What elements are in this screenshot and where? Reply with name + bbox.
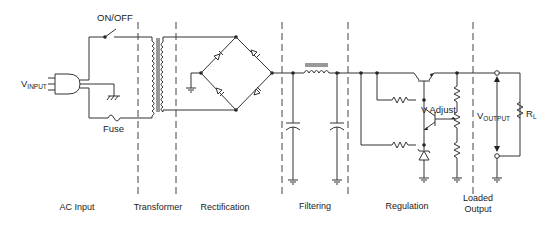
vadjust-label: V Adjust [421,104,456,115]
capacitor-icon [330,73,344,180]
on-off-switch-icon[interactable] [103,29,152,39]
vinput-label-sub: INPUT [27,83,47,90]
ground-icon [332,180,342,184]
output-terminal-positive[interactable] [495,71,500,76]
transformer-icon [152,37,236,118]
voltage-divider [451,73,460,178]
section-label-transformer: Transformer [128,202,188,213]
vinput-label: VINPUT [21,78,47,90]
zener-diode-icon [418,145,430,178]
rl-label-sub: L [533,113,537,120]
capacitor-icon [286,73,300,180]
ground-icon [452,178,462,182]
resistor-icon [392,97,416,103]
section-label-loaded-output: Loaded Output [450,193,506,215]
ground-icon [186,88,196,92]
switch-label: ON/OFF [97,12,133,23]
chassis-ground-icon [107,96,120,100]
diode-icon [216,88,224,96]
rl-label-main: R [526,108,533,119]
resistor-icon [392,142,416,148]
ac-plug-icon [48,74,80,94]
fuse-icon [108,115,152,121]
section-label-ac-input: AC Input [50,202,104,213]
ground-icon [419,178,429,182]
ground-icon [492,178,502,182]
inductor-icon [298,64,340,73]
bridge-rectifier [199,35,274,112]
loaded-output-line1: Loaded [450,193,506,204]
ground-icon [288,180,298,184]
wire-rect-ground [191,73,201,88]
wire-live [80,37,104,80]
wire-earth [80,84,114,96]
fuse-label: Fuse [103,123,124,134]
voutput-label: VOUTPUT [477,110,510,122]
voutput-label-sub: OUTPUT [483,115,510,122]
loaded-output-line2: Output [450,204,506,215]
section-label-filtering: Filtering [285,201,345,212]
diode-icon [254,87,261,95]
wire-neutral [80,88,108,118]
rl-label: RL [526,108,537,120]
output-terminal-negative[interactable] [495,154,500,159]
section-label-rectification: Rectification [190,202,260,213]
section-label-regulation: Regulation [372,201,442,212]
wire-bias-1 [377,73,392,100]
